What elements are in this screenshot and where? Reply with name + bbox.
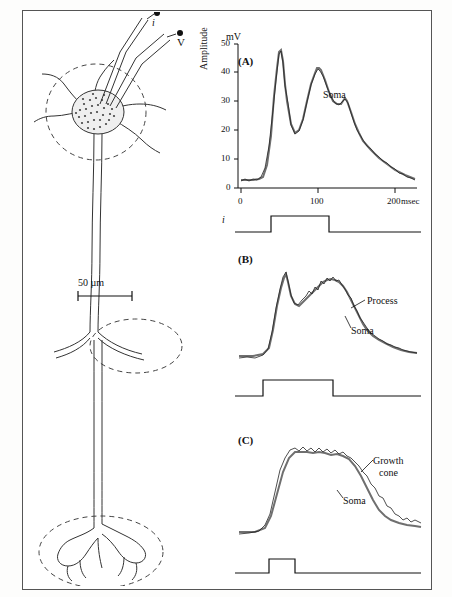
panel-a-ytick-20: 20: [221, 124, 230, 134]
panel-c-trace-label-soma: Soma: [343, 495, 366, 506]
scale-bar: [78, 291, 132, 301]
voltage-electrode-label: V: [177, 36, 185, 48]
panel-c-trace-label-growth: Growth: [373, 455, 404, 466]
current-electrode-label: i: [152, 17, 155, 28]
panel-b-trace-label-process: Process: [367, 295, 398, 306]
panel-a-stimulus-trace: [233, 210, 423, 236]
neuron-diagram: [24, 12, 234, 586]
panel-a-ytick-50: 50: [221, 38, 230, 48]
panel-b-stimulus-trace: [233, 374, 423, 400]
panel-b-trace-label-soma: Soma: [351, 325, 374, 336]
panel-a-ytick-10: 10: [221, 153, 230, 163]
current-electrode-dot: [154, 12, 160, 16]
scale-bar-label: 50 µm: [78, 277, 104, 288]
panel-a-trace-label-soma: Soma: [323, 89, 346, 100]
panel-b-chart: Process Soma: [233, 248, 425, 376]
panel-a-ytick-30: 30: [221, 95, 230, 105]
panel-a-xtick-100: 100: [310, 196, 324, 206]
panel-c-trace-label-cone: cone: [379, 467, 398, 478]
panel-a-xtick-200: 200: [387, 196, 401, 206]
figure-root: i V 50 µm (A) mV Amplitude Soma 50 40 30…: [0, 0, 452, 597]
panel-a-stim-label: i: [222, 214, 225, 225]
panel-c-stimulus-trace: [233, 553, 423, 579]
panel-a-xtick-0: 0: [238, 196, 243, 206]
panel-a-ytick-0: 0: [226, 182, 231, 192]
panel-a-chart: Soma: [205, 40, 420, 210]
panel-a-ytick-40: 40: [221, 66, 230, 76]
panel-a-x-unit: msec: [401, 196, 420, 206]
panel-c-chart: Growth cone Soma: [233, 428, 425, 556]
